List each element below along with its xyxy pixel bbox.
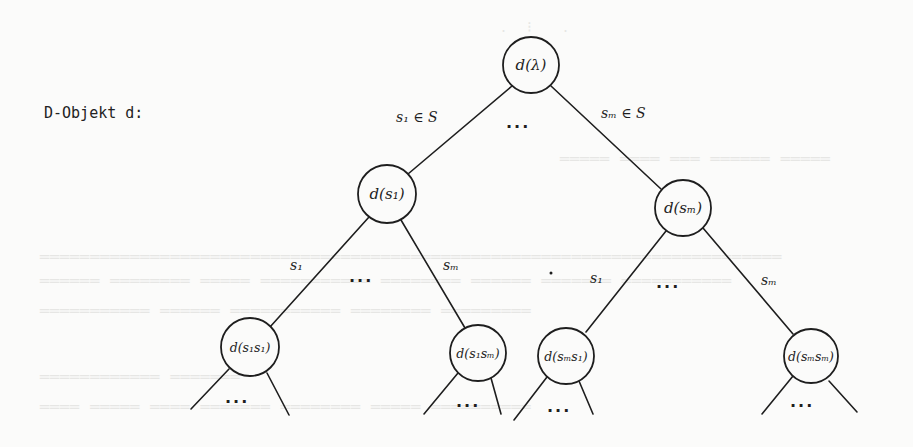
svg-text:d(s₁): d(s₁) (369, 185, 404, 203)
edge-stub (829, 381, 857, 412)
edge-stub (579, 381, 593, 414)
edge-label-sm-left: s₁ (590, 270, 603, 286)
svg-text:d(λ): d(λ) (516, 56, 547, 74)
ellipsis-leaf-sms1: ... (547, 397, 571, 416)
svg-text:d(sₘs₁): d(sₘs₁) (544, 349, 587, 364)
ellipsis-root: ... (506, 113, 530, 132)
edge-sm-smsm (703, 228, 793, 334)
edge-label-s1-right: sₘ (443, 257, 459, 273)
ellipsis-sm: ... (656, 273, 680, 292)
edge-stub (191, 369, 229, 409)
edge-stub (491, 378, 501, 414)
edge-root-s1 (408, 86, 512, 174)
ellipsis-leaf-s1s1: ... (225, 388, 249, 407)
edge-s1-s1sm (401, 220, 465, 328)
node-s1: d(s₁) (358, 165, 416, 223)
svg-text:d(sₘ): d(sₘ) (664, 199, 702, 217)
node-s1s1: d(s₁s₁) (221, 318, 279, 376)
edge-label-root-right: sₘ ∈ S (601, 105, 646, 121)
svg-text:d(s₁s₁): d(s₁s₁) (230, 340, 271, 355)
edge-stub (267, 373, 289, 415)
edge-label-sm-right: sₘ (761, 272, 777, 288)
edge-label-s1-left: s₁ (290, 257, 303, 273)
node-root: d(λ) (503, 37, 559, 93)
node-smsm: d(sₘsₘ) (784, 329, 838, 383)
edge-root-sm (551, 86, 661, 189)
edge-stub (424, 373, 458, 414)
edge-stub (514, 377, 547, 420)
edge-stub (762, 376, 793, 414)
ellipsis-leaf-s1sm: ... (456, 392, 480, 411)
ellipsis-leaf-smsm: ... (790, 392, 814, 411)
node-sms1: d(sₘs₁) (538, 328, 594, 384)
svg-text:d(sₘsₘ): d(sₘsₘ) (788, 349, 834, 364)
node-s1sm: d(s₁sₘ) (450, 325, 506, 381)
node-sm: d(sₘ) (655, 180, 711, 236)
edge-label-root-left: s₁ ∈ S (396, 109, 438, 125)
ellipsis-s1: ... (349, 267, 373, 286)
stray-dot (550, 272, 553, 275)
svg-text:d(s₁sₘ): d(s₁sₘ) (456, 346, 499, 361)
tree-diagram: d(λ) d(s₁) d(sₘ) d(s₁s₁) d(s₁sₘ) d(sₘs₁)… (0, 0, 913, 447)
